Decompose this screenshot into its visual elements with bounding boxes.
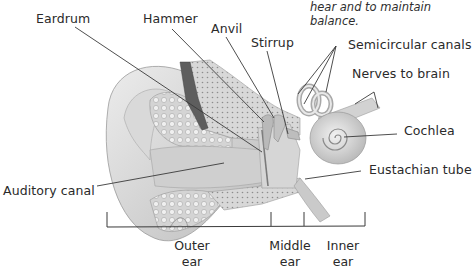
label-eardrum: Eardrum: [36, 12, 90, 26]
label-anvil: Anvil: [211, 22, 242, 36]
caption-line-2: balance.: [310, 14, 431, 28]
region-middle-ear: Middle ear: [265, 238, 315, 270]
cochlea-shape: [310, 112, 366, 164]
eustachian-tube-shape: [294, 178, 330, 222]
label-eustachian-tube: Eustachian tube: [369, 163, 472, 177]
caption-text: hear and to maintain balance.: [310, 0, 431, 28]
region-inner-ear: Inner ear: [318, 238, 368, 270]
leader-semicircular-1: [298, 46, 336, 94]
label-semicircular-canals: Semicircular canals: [348, 38, 472, 52]
auditory-canal-shape: [150, 146, 266, 188]
label-stirrup: Stirrup: [251, 36, 294, 50]
region-outer-ear: Outer ear: [167, 238, 217, 270]
label-nerves-to-brain: Nerves to brain: [352, 67, 450, 81]
label-hammer: Hammer: [143, 12, 198, 26]
label-cochlea: Cochlea: [404, 124, 455, 138]
leader-eustachian: [305, 171, 361, 179]
caption-line-1: hear and to maintain: [310, 0, 431, 14]
label-auditory-canal: Auditory canal: [3, 184, 95, 198]
